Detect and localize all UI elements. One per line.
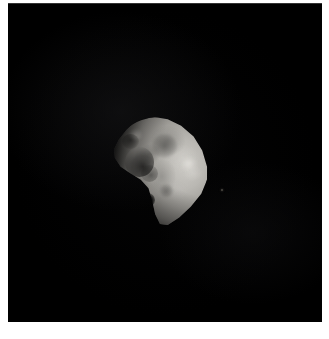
crater-right-bright bbox=[181, 156, 198, 173]
photo-frame bbox=[0, 0, 329, 339]
crater-lower-mid bbox=[160, 184, 173, 197]
moon-surface-texture bbox=[112, 117, 208, 225]
plate-top-seam bbox=[8, 3, 322, 4]
crater-upper-rim bbox=[122, 134, 139, 149]
moon-terminator-shading bbox=[112, 117, 208, 225]
crater-upper-bright-rim bbox=[129, 128, 142, 140]
moon-body bbox=[112, 117, 208, 225]
sky-background bbox=[8, 3, 322, 322]
background-star bbox=[221, 189, 223, 191]
crater-cluster-upper-left bbox=[125, 147, 154, 177]
crater-lower-left-shadow bbox=[141, 193, 155, 207]
crater-lower-left-rim bbox=[137, 188, 160, 211]
crater-mid-dark bbox=[152, 134, 177, 158]
crater-center-left bbox=[141, 165, 158, 182]
